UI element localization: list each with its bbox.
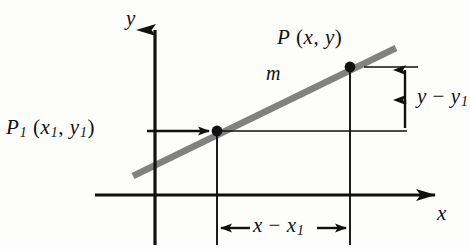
slope-line — [133, 48, 396, 176]
rise-label: y − y1 — [417, 86, 468, 109]
run-label: x − x1 — [253, 215, 304, 238]
point-p-marker — [345, 62, 356, 73]
p-coord-y: y — [325, 25, 335, 49]
p-name: P — [277, 25, 290, 49]
point-p1-label: P1 (x1, y1) — [6, 117, 95, 140]
p1-coord-y: y — [70, 115, 80, 139]
point-p-label: P (x, y) — [277, 27, 342, 48]
p-coord-x: x — [304, 25, 314, 49]
run-minus: − — [263, 213, 287, 237]
figure-root: P1 (x1, y1) P (x, y) m y x y − y1 x − x1 — [0, 0, 470, 249]
p1-coord-y-subscript: 1 — [80, 125, 88, 140]
rise-minus: − — [427, 84, 451, 108]
p1-paren-close: ) — [88, 115, 96, 139]
p1-name: P — [6, 115, 19, 139]
rise-lead: y — [417, 84, 427, 108]
run-term-subscript: 1 — [297, 223, 305, 238]
run-term: x — [287, 213, 297, 237]
x-axis-label: x — [437, 203, 446, 224]
run-lead: x — [253, 213, 263, 237]
p-paren-open: ( — [290, 25, 303, 49]
slope-label: m — [266, 63, 280, 83]
rise-term-subscript: 1 — [461, 94, 469, 109]
p1-comma: , — [58, 115, 70, 139]
rise-term: y — [451, 84, 461, 108]
p1-coord-x: x — [41, 115, 51, 139]
p-comma: , — [313, 25, 325, 49]
p-paren-close: ) — [335, 25, 343, 49]
y-axis-label: y — [126, 8, 135, 29]
p1-paren-open: ( — [27, 115, 40, 139]
point-p1-marker — [212, 126, 223, 137]
